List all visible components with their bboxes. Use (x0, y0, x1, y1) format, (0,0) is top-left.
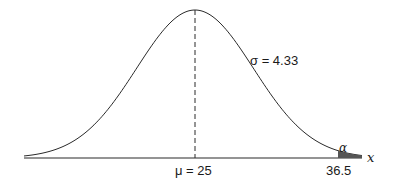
critical-value-label: 36.5 (326, 163, 351, 178)
mean-label: μ = 25 (175, 163, 212, 178)
bell-curve (24, 10, 362, 156)
sigma-label: σ = 4.33 (250, 53, 298, 68)
alpha-label: α (339, 141, 347, 155)
normal-distribution-diagram: σ = 4.33 α x μ = 25 36.5 (0, 0, 401, 188)
x-axis-label: x (367, 150, 375, 165)
